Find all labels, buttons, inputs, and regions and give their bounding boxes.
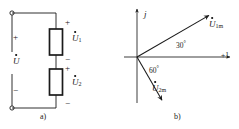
figure-canvas: U + − + − + − U 1 U 2 a)	[0, 0, 239, 129]
phasor-u1m-arrow	[137, 15, 209, 57]
panel-a-circuit: U + − + − + − U 1 U 2 a)	[0, 0, 120, 129]
angle-60-value: 60	[149, 66, 157, 75]
angle-30-value: 30	[176, 41, 184, 50]
terminal-plus-sign: +	[13, 33, 18, 42]
element-1-voltage-label: U 1	[72, 34, 82, 43]
element-2-box	[50, 69, 63, 95]
panel-b-phasor: j +1 30° 60° U 1m U 2m b)	[120, 0, 239, 129]
phasor-u2m-label: U 2m	[152, 84, 166, 93]
element-1-box	[50, 29, 63, 55]
element-2-plus-sign: +	[65, 64, 70, 73]
phasor-u2m-arrow	[137, 57, 162, 100]
angle-30-unit: °	[184, 40, 186, 46]
terminal-minus-sign: −	[13, 86, 18, 95]
phasor-u1m-subscript: 1m	[216, 23, 224, 29]
element-2-minus-sign: −	[65, 99, 70, 108]
angle-60-label: 60°	[149, 65, 159, 74]
real-axis-label: +1	[221, 52, 229, 60]
panel-a-caption: a)	[40, 113, 46, 121]
source-voltage-label: U	[13, 57, 20, 66]
angle-60-unit: °	[157, 65, 159, 71]
phasor-u1m-label: U 1m	[209, 20, 223, 29]
element-1-plus-sign: +	[65, 18, 70, 27]
angle-30-label: 30°	[176, 40, 186, 49]
phasor-u2m-subscript: 2m	[159, 87, 167, 93]
element-2-voltage-label: U 2	[72, 78, 82, 87]
imaginary-axis-label: j	[144, 10, 147, 19]
panel-b-caption: b)	[174, 113, 181, 121]
